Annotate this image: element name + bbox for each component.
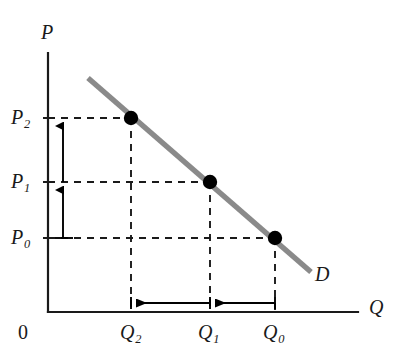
demand-curve-canvas	[0, 0, 406, 357]
quantity-label-q2-base: Q	[120, 321, 135, 343]
price-label-p1-sub: 1	[24, 181, 30, 195]
price-label-p0-base: P	[11, 226, 23, 248]
quantity-label-q0-sub: 0	[278, 332, 284, 346]
data-point-q0-p0	[268, 231, 282, 245]
price-label-p1: P1	[11, 171, 30, 191]
price-label-p1-base: P	[11, 170, 23, 192]
price-label-p2: P2	[11, 107, 30, 127]
quantity-label-q0-base: Q	[263, 321, 278, 343]
quantity-change-arrows	[131, 297, 275, 309]
data-point-q2-p2	[124, 111, 138, 125]
y-axis-label: P	[41, 22, 53, 42]
quantity-label-q1-base: Q	[198, 321, 213, 343]
price-label-p0-sub: 0	[24, 237, 30, 251]
x-axis-label: Q	[369, 297, 384, 317]
quantity-label-q2-sub: 2	[135, 332, 141, 346]
quantity-label-q2: Q2	[120, 322, 141, 342]
origin-label: 0	[18, 322, 28, 342]
quantity-label-q0: Q0	[263, 322, 284, 342]
demand-curve-figure: P Q 0 P2 P1 P0 Q2 Q1 Q0 D	[0, 0, 406, 357]
dashed-quantity-lines	[131, 118, 275, 312]
quantity-label-q1: Q1	[198, 322, 219, 342]
demand-curve-label: D	[315, 264, 330, 284]
data-point-q1-p1	[203, 175, 217, 189]
price-label-p2-base: P	[11, 106, 23, 128]
price-label-p2-sub: 2	[24, 117, 30, 131]
price-label-p0: P0	[11, 227, 30, 247]
dashed-price-lines	[48, 118, 275, 238]
quantity-label-q1-sub: 1	[213, 332, 219, 346]
